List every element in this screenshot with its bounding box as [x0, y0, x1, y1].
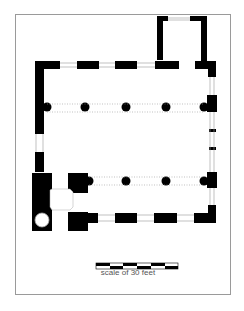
- east-wall: [207, 95, 217, 112]
- tower-west-wall: [157, 16, 163, 60]
- south-wall: [88, 213, 98, 223]
- west-wall: [35, 61, 44, 134]
- scale-label: scale of 30 feet: [88, 268, 168, 277]
- stair-well: [35, 213, 49, 227]
- floor-plan: [0, 0, 244, 311]
